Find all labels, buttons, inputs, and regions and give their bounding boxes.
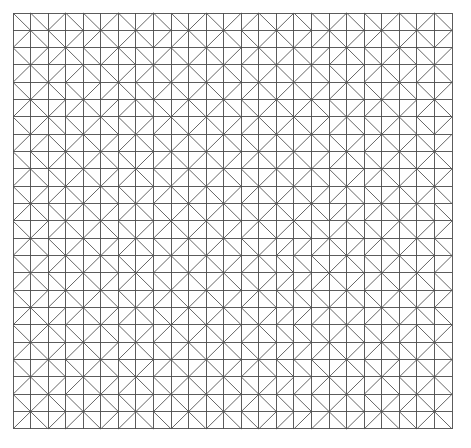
diagonal-backslash xyxy=(171,256,189,273)
diagonal-slash xyxy=(382,394,400,411)
diagonal-slash xyxy=(224,117,242,134)
diagonal-backslash xyxy=(153,100,171,117)
diagonal-slash xyxy=(118,30,136,47)
diagonal-slash xyxy=(259,169,277,186)
diagonal-backslash xyxy=(206,360,224,377)
diagonal-backslash xyxy=(347,82,365,99)
diagonal-backslash xyxy=(101,117,119,134)
diagonal-slash xyxy=(224,360,242,377)
diagonal-backslash xyxy=(66,290,84,307)
diagonal-backslash xyxy=(153,308,171,325)
diagonal-slash xyxy=(13,238,31,255)
diagonal-slash xyxy=(259,65,277,82)
diagonal-slash xyxy=(66,169,84,186)
diagonal-slash xyxy=(171,65,189,82)
diagonal-slash xyxy=(259,342,277,359)
diagonal-backslash xyxy=(364,325,382,342)
diagonal-backslash xyxy=(171,82,189,99)
diagonal-slash xyxy=(153,82,171,99)
diagonal-backslash xyxy=(83,377,101,394)
diagonal-slash xyxy=(294,65,312,82)
diagonal-slash xyxy=(224,256,242,273)
diagonal-backslash xyxy=(329,273,347,290)
diagonal-slash xyxy=(399,204,417,221)
diagonal-slash xyxy=(364,30,382,47)
diagonal-backslash xyxy=(31,238,49,255)
diagonal-backslash xyxy=(364,152,382,169)
diagonal-slash xyxy=(171,377,189,394)
diagonal-backslash xyxy=(241,100,259,117)
diagonal-slash xyxy=(153,360,171,377)
diagonal-slash xyxy=(434,82,452,99)
diagonal-slash xyxy=(347,342,365,359)
diagonal-backslash xyxy=(171,13,189,30)
diagonal-backslash xyxy=(312,394,330,411)
diagonal-slash xyxy=(136,290,154,307)
diagonal-slash xyxy=(224,152,242,169)
diagonal-slash xyxy=(399,65,417,82)
diagonal-slash xyxy=(399,134,417,151)
diagonal-backslash xyxy=(364,360,382,377)
diagonal-backslash xyxy=(312,325,330,342)
diagonal-slash xyxy=(312,82,330,99)
diagonal-backslash xyxy=(417,360,435,377)
diagonal-slash xyxy=(101,412,119,429)
diagonal-slash xyxy=(417,65,435,82)
diagonal-slash xyxy=(224,13,242,30)
diagonal-slash xyxy=(153,394,171,411)
diagonal-backslash xyxy=(259,13,277,30)
diagonal-backslash xyxy=(206,221,224,238)
diagonal-backslash xyxy=(31,377,49,394)
diagonal-slash xyxy=(294,204,312,221)
diagonal-slash xyxy=(241,186,259,203)
diagonal-backslash xyxy=(364,394,382,411)
diagonal-slash xyxy=(13,30,31,47)
diagonal-backslash xyxy=(241,238,259,255)
diagonal-slash xyxy=(206,308,224,325)
diagonal-slash xyxy=(347,30,365,47)
diagonal-backslash xyxy=(31,204,49,221)
diagonal-backslash xyxy=(13,394,31,411)
diagonal-slash xyxy=(276,238,294,255)
diagonal-backslash xyxy=(83,204,101,221)
diagonal-backslash xyxy=(364,221,382,238)
diagonal-slash xyxy=(259,412,277,429)
diagonal-backslash xyxy=(399,290,417,307)
diagonal-backslash xyxy=(382,238,400,255)
diagonal-slash xyxy=(224,221,242,238)
diagonal-backslash xyxy=(171,290,189,307)
diagonal-backslash xyxy=(417,308,435,325)
diagonal-slash xyxy=(83,360,101,377)
diagonal-slash xyxy=(118,100,136,117)
diagonal-backslash xyxy=(347,290,365,307)
diagonal-backslash xyxy=(101,65,119,82)
diagonal-backslash xyxy=(206,117,224,134)
diagonal-backslash xyxy=(294,117,312,134)
diagonal-slash xyxy=(329,204,347,221)
diagonal-backslash xyxy=(66,117,84,134)
diagonal-backslash xyxy=(347,117,365,134)
diagonal-slash xyxy=(329,48,347,65)
diagonal-slash xyxy=(294,412,312,429)
diagonal-slash xyxy=(189,13,207,30)
diagonal-backslash xyxy=(294,48,312,65)
diagonal-slash xyxy=(83,290,101,307)
diagonal-backslash xyxy=(259,360,277,377)
diagonal-slash xyxy=(399,394,417,411)
diagonal-slash xyxy=(171,134,189,151)
diagonal-backslash xyxy=(13,13,31,30)
diagonal-slash xyxy=(31,117,49,134)
diagonal-backslash xyxy=(434,412,452,429)
diagonal-slash xyxy=(276,48,294,65)
diagonal-backslash xyxy=(189,412,207,429)
diagonal-slash xyxy=(171,342,189,359)
diagonal-slash xyxy=(118,342,136,359)
diagonal-slash xyxy=(434,325,452,342)
diagonal-slash xyxy=(13,100,31,117)
diagonal-slash xyxy=(206,377,224,394)
diagonal-slash xyxy=(382,117,400,134)
diagonal-slash xyxy=(259,273,277,290)
diagonal-backslash xyxy=(136,308,154,325)
diagonal-backslash xyxy=(259,117,277,134)
diagonal-backslash xyxy=(101,256,119,273)
